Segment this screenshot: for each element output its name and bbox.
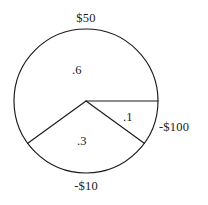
outcome-label-bottom: -$10 [0, 180, 172, 193]
outcome-label-right: -$100 [159, 121, 189, 134]
pie-chart-figure: $50 -$10 -$100 .6 .3 .1 [0, 0, 208, 205]
slice-probability-label-mid: .3 [77, 135, 87, 148]
slice-probability-label-big: .6 [72, 64, 82, 77]
slice-probability-label-small: .1 [123, 111, 133, 124]
pie-chart-graphic [0, 0, 208, 205]
outcome-label-top: $50 [0, 12, 172, 25]
